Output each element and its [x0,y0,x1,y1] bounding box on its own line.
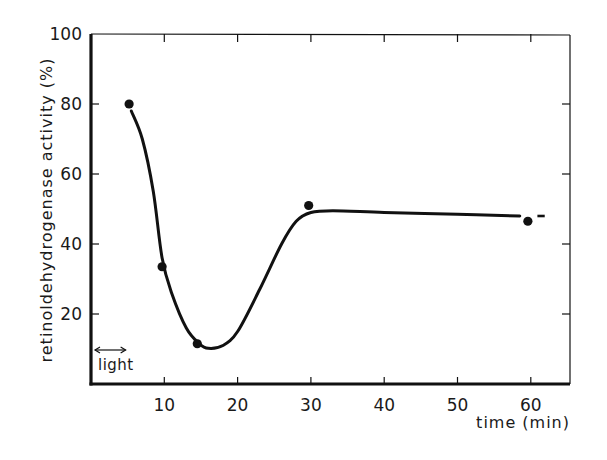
x-axis-ticks: 102030405060 [153,34,541,415]
curve-path [131,111,519,348]
y-axis-title: retinoldehydrogenase activity (%) [37,58,56,363]
y-tick-label: 80 [60,94,82,114]
x-axis-title: time (min) [476,413,570,432]
x-tick-label: 40 [373,395,395,415]
x-tick-label: 20 [227,395,249,415]
x-tick-label: 50 [447,395,469,415]
data-point [304,201,313,210]
x-tick-label: 10 [153,395,175,415]
y-tick-label: 20 [60,304,82,324]
data-point [158,262,167,271]
data-point [523,217,532,226]
x-tick-label: 30 [300,395,322,415]
fitted-curve [131,111,544,348]
y-tick-label: 60 [60,164,82,184]
x-tick-label: 60 [520,395,542,415]
y-tick-label: 100 [50,24,82,44]
top-border [91,34,570,35]
y-axis-ticks: 20406080100 [50,24,570,324]
y-tick-label: 40 [60,234,82,254]
annotations: light [95,347,134,374]
light-label: light [98,356,134,374]
data-point [193,339,202,348]
data-points [125,99,533,348]
data-point [125,99,134,108]
chart: 102030405060 20406080100 light time (min… [0,0,607,460]
